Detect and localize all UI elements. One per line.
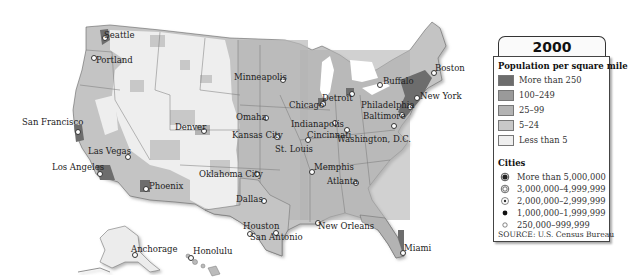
- density-swatch: [498, 75, 514, 86]
- city-symbol-over-5m-icon: [498, 173, 512, 182]
- city-label: Las Vegas: [88, 147, 131, 156]
- density-swatch: [498, 135, 514, 146]
- density-class-label: 5–24: [519, 120, 539, 130]
- city-label: New Orleans: [318, 222, 374, 231]
- city-label: Boston: [435, 64, 465, 73]
- city-label: Oklahoma City: [199, 170, 263, 179]
- city-class-row: 250,000–999,999: [498, 220, 590, 230]
- density-class-label: 100–249: [519, 90, 555, 100]
- city-class-label: 3,000,000–4,999,999: [517, 184, 606, 194]
- city-label: Indianapolis: [291, 120, 344, 129]
- city-label: Buffalo: [383, 77, 414, 86]
- city-label: Anchorage: [131, 245, 178, 254]
- city-label: Detroit: [322, 94, 353, 103]
- city-label: Seattle: [104, 31, 135, 40]
- city-label: Atlanta: [327, 177, 358, 186]
- city-label: Portland: [96, 56, 133, 65]
- city-label: Memphis: [314, 163, 354, 172]
- density-class-row: 100–249: [498, 90, 555, 100]
- city-class-label: 250,000–999,999: [517, 220, 590, 230]
- source-note: SOURCE: U.S. Census Bureau: [498, 230, 614, 239]
- city-label: Omaha: [236, 113, 267, 122]
- legend-year: 2000: [498, 36, 606, 57]
- city-marker-icon: [391, 123, 397, 129]
- city-class-row: 3,000,000–4,999,999: [498, 184, 606, 194]
- density-swatch: [498, 120, 514, 131]
- city-symbol-250k-1m-icon: [498, 221, 512, 230]
- city-label: Kansas City: [232, 131, 283, 140]
- map-legend: 2000 Population per square mile More tha…: [493, 36, 610, 244]
- city-symbol-3m-5m-icon: [498, 185, 512, 194]
- city-label: Denver: [175, 123, 206, 132]
- city-class-row: More than 5,000,000: [498, 172, 606, 182]
- city-label: San Francisco: [22, 118, 83, 127]
- city-label: New York: [420, 92, 462, 101]
- city-label: St. Louis: [275, 145, 313, 154]
- density-class-row: Less than 5: [498, 135, 567, 145]
- city-label: Minneapolis: [234, 73, 287, 82]
- density-swatch: [498, 105, 514, 116]
- city-marker-icon: [75, 129, 81, 135]
- density-class-label: 25–99: [519, 105, 544, 115]
- density-class-label: Less than 5: [519, 135, 567, 145]
- city-class-label: More than 5,000,000: [517, 172, 606, 182]
- city-label: Dallas: [236, 195, 263, 204]
- city-class-label: 1,000,000–1,999,999: [517, 208, 606, 218]
- city-label: Baltimore: [363, 112, 405, 121]
- density-class-row: 25–99: [498, 105, 544, 115]
- cities-legend-title: Cities: [498, 158, 525, 168]
- density-class-row: More than 250: [498, 75, 581, 85]
- city-label: Houston: [243, 222, 279, 231]
- city-label: Chicago: [289, 101, 324, 110]
- city-label: Washington, D.C.: [337, 135, 411, 144]
- city-symbol-2m-3m-icon: [498, 197, 512, 206]
- city-label: Philadelphia: [361, 101, 415, 110]
- density-class-label: More than 250: [519, 75, 581, 85]
- density-swatch: [498, 90, 514, 101]
- city-symbol-1m-2m-icon: [498, 209, 512, 218]
- city-label: Phoenix: [149, 182, 183, 191]
- city-label: San Antonio: [250, 233, 303, 242]
- city-class-label: 2,000,000–2,999,999: [517, 196, 606, 206]
- density-class-row: 5–24: [498, 120, 539, 130]
- legend-box: Population per square mile More than 250…: [493, 56, 610, 242]
- city-class-row: 1,000,000–1,999,999: [498, 208, 606, 218]
- city-class-row: 2,000,000–2,999,999: [498, 196, 606, 206]
- density-legend-title: Population per square mile: [498, 61, 628, 71]
- city-label: Los Angeles: [52, 163, 104, 172]
- city-label: Honolulu: [193, 247, 233, 256]
- city-label: Miami: [404, 244, 431, 253]
